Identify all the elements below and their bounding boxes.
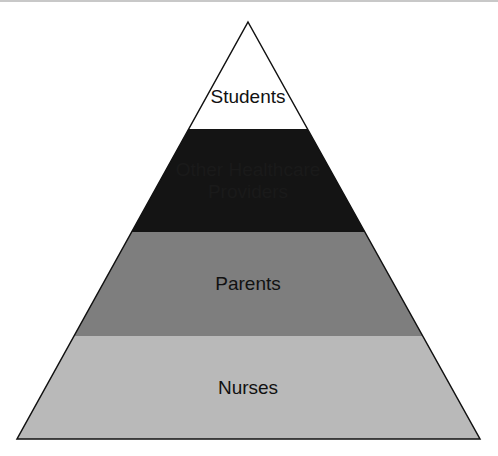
level-label-students: Students	[211, 86, 286, 107]
level-label-other-healthcare-providers-line-2: Providers	[208, 181, 288, 202]
pyramid-diagram: StudentsOther HealthcareProvidersParents…	[0, 0, 498, 456]
level-label-other-healthcare-providers-line-1: Other Healthcare	[176, 159, 321, 180]
pyramid-level-students	[189, 22, 308, 129]
level-label-parents: Parents	[215, 273, 280, 294]
pyramid-svg: StudentsOther HealthcareProvidersParents…	[0, 0, 498, 456]
level-label-nurses: Nurses	[218, 377, 278, 398]
